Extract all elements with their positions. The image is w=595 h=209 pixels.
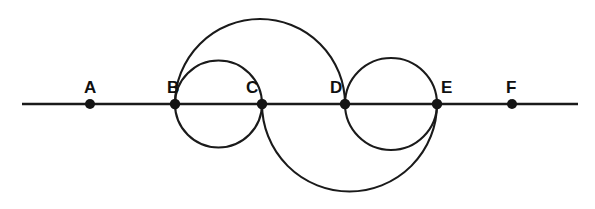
arc-ce-upper bbox=[262, 104, 437, 192]
point-dot-e[interactable] bbox=[432, 99, 442, 109]
point-label-b: B bbox=[167, 78, 179, 97]
point-dot-b[interactable] bbox=[170, 99, 180, 109]
geometry-figure: ABCDEF bbox=[0, 0, 595, 209]
point-dot-c[interactable] bbox=[257, 99, 267, 109]
diagram-canvas: ABCDEF bbox=[0, 0, 595, 209]
point-label-c: C bbox=[246, 78, 258, 97]
point-labels-group: ABCDEF bbox=[84, 78, 516, 97]
point-label-d: D bbox=[330, 78, 342, 97]
point-label-e: E bbox=[441, 78, 452, 97]
point-label-f: F bbox=[506, 78, 516, 97]
point-label-a: A bbox=[84, 78, 96, 97]
point-dot-a[interactable] bbox=[85, 99, 95, 109]
point-dot-d[interactable] bbox=[340, 99, 350, 109]
point-dot-f[interactable] bbox=[507, 99, 517, 109]
